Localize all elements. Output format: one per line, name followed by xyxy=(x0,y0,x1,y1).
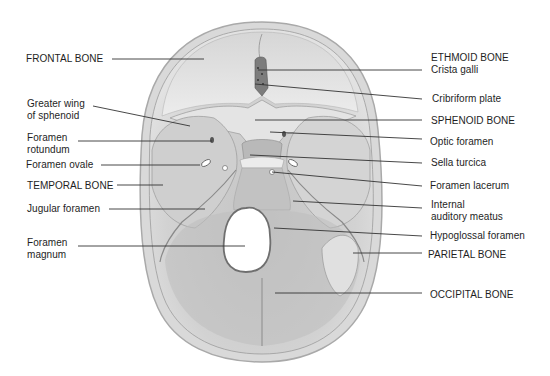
label-internal-auditory-meatus: Internal auditory meatus xyxy=(431,199,503,223)
label-foramen-lacerum: Foramen lacerum xyxy=(430,180,509,192)
optic-foramen-right xyxy=(282,131,286,137)
label-foramen-rotundum: Foramen rotundum xyxy=(27,132,70,156)
label-ethmoid-bone-crista-galli: ETHMOID BONE Crista galli xyxy=(431,52,509,76)
label-frontal-bone: FRONTAL BONE xyxy=(26,53,103,65)
label-sphenoid-bone: SPHENOID BONE xyxy=(431,115,515,127)
label-hypoglossal-foramen: Hypoglossal foramen xyxy=(430,230,525,242)
label-jugular-foramen: Jugular foramen xyxy=(27,203,100,215)
label-foramen-ovale: Foramen ovale xyxy=(26,159,93,171)
label-parietal-bone: PARIETAL BONE xyxy=(428,249,506,261)
label-temporal-bone: TEMPORAL BONE xyxy=(27,180,113,192)
foramen-magnum xyxy=(224,208,271,272)
clivus xyxy=(234,168,291,210)
crista-galli xyxy=(255,57,268,96)
label-foramen-magnum: Foramen magnum xyxy=(27,237,67,261)
label-occipital-bone: OCCIPITAL BONE xyxy=(430,289,514,301)
label-greater-wing-sphenoid: Greater wing of sphenoid xyxy=(27,98,85,122)
label-sella-turcica: Sella turcica xyxy=(431,157,486,169)
foramen-rotundum-left xyxy=(210,137,214,143)
foramen-lacerum-left xyxy=(223,166,228,171)
label-optic-foramen: Optic foramen xyxy=(430,136,493,148)
label-cribriform-plate: Cribriform plate xyxy=(432,93,501,105)
